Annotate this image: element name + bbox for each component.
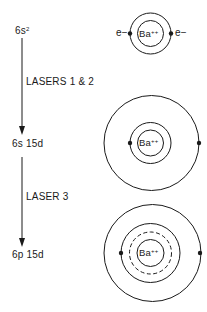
electron-dot-left	[128, 31, 132, 35]
ion-symbol: Ba	[139, 247, 151, 258]
ion-symbol: Ba	[139, 28, 151, 39]
level-label-superscript: 2	[26, 26, 30, 32]
level-label-ground: 6s2	[15, 26, 30, 36]
level-label-text: 6s	[15, 25, 26, 36]
transition-arrow-2	[19, 157, 25, 247]
electron-dot-right	[169, 31, 173, 35]
electron-label-right: e−	[175, 28, 187, 38]
electron-label-left: e−	[116, 28, 128, 38]
ion-charge: ++	[151, 248, 158, 254]
electron-dot-left	[119, 251, 123, 255]
ion-core-label-final: Ba++	[139, 248, 158, 258]
transition-arrow-1	[19, 38, 25, 135]
diagram-canvas	[0, 0, 207, 312]
electron-dot-left	[128, 141, 132, 145]
transition-label-lasers-1-2: LASERS 1 & 2	[26, 77, 94, 87]
ion-core-label-intermediate: Ba++	[139, 138, 158, 148]
ion-core-label-ground: Ba++	[139, 29, 158, 39]
electron-dot-right	[198, 251, 202, 255]
ion-charge: ++	[151, 138, 158, 144]
level-label-final: 6p 15d	[12, 250, 44, 260]
level-label-intermediate: 6s 15d	[12, 139, 43, 149]
ion-charge: ++	[151, 29, 158, 35]
transition-label-laser-3: LASER 3	[26, 192, 69, 202]
electron-dot-right	[197, 141, 201, 145]
ion-symbol: Ba	[139, 137, 151, 148]
